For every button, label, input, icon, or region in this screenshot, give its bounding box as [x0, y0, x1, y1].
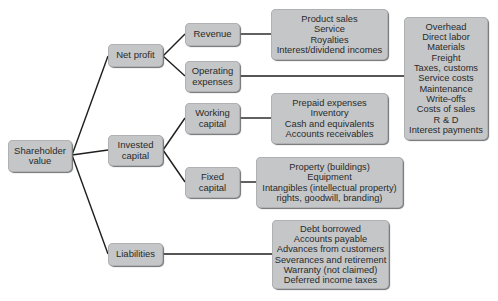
- list-item: Costs of sales: [417, 104, 475, 114]
- link-invested-fixed: [163, 150, 185, 182]
- node-liabilities: Liabilities: [108, 243, 163, 266]
- list-working-capital-items: Prepaid expenses Inventory Cash and equi…: [271, 93, 388, 144]
- node-net-profit: Net profit: [108, 44, 163, 67]
- link-root-invested-capital: [72, 150, 108, 155]
- list-item: Inventory: [310, 108, 348, 118]
- node-label: Working: [195, 108, 230, 119]
- list-item: Prepaid expenses: [292, 98, 366, 108]
- list-operating-expense-items: Overhead Direct labor Materials Freight …: [404, 17, 488, 140]
- list-item: Freight: [432, 53, 461, 63]
- list-item: Cash and equivalents: [285, 119, 374, 129]
- node-label: capital: [199, 119, 226, 130]
- list-item: rights, goodwill, branding): [277, 193, 383, 203]
- node-working-capital: Working capital: [185, 103, 240, 134]
- link-invested-working: [163, 118, 185, 150]
- list-item: R & D: [434, 115, 459, 125]
- list-item: Severances and retirement: [275, 255, 387, 265]
- link-root-net-profit: [72, 56, 108, 155]
- node-fixed-capital: Fixed capital: [185, 167, 240, 198]
- link-net-profit-revenue: [163, 34, 185, 56]
- node-label: Operating: [192, 66, 234, 77]
- node-invested-capital: Invested capital: [108, 135, 163, 166]
- list-item: Materials: [427, 42, 465, 52]
- list-liabilities-items: Debt borrowed Accounts payable Advances …: [272, 220, 389, 289]
- list-fixed-capital-items: Property (buildings) Equipment Intangibl…: [256, 157, 403, 208]
- list-item: Deferred income taxes: [284, 275, 378, 285]
- list-item: Taxes, customs: [414, 63, 478, 73]
- list-item: Royalties: [310, 35, 348, 45]
- node-revenue: Revenue: [185, 23, 240, 46]
- node-label: capital: [122, 151, 149, 162]
- list-item: Interest/dividend incomes: [277, 45, 382, 55]
- node-label: Invested: [118, 140, 154, 151]
- list-item: Overhead: [426, 22, 467, 32]
- list-item: Advances from customers: [277, 244, 384, 254]
- list-revenue-items: Product sales Service Royalties Interest…: [271, 9, 388, 60]
- list-item: Accounts payable: [294, 234, 367, 244]
- list-item: Accounts receivables: [286, 129, 374, 139]
- list-item: Debt borrowed: [300, 224, 361, 234]
- list-item: Intangibles (intellectual property): [262, 183, 396, 193]
- node-label: Liabilities: [116, 249, 155, 260]
- list-item: Maintenance: [419, 84, 472, 94]
- list-item: Write-offs: [426, 94, 465, 104]
- list-item: Warranty (not claimed): [284, 265, 378, 275]
- link-net-profit-opex: [163, 56, 185, 76]
- node-shareholder-value: Shareholder value: [8, 140, 72, 172]
- list-item: Product sales: [301, 14, 357, 24]
- node-label: Fixed: [201, 172, 224, 183]
- node-label: capital: [199, 183, 226, 194]
- list-item: Service: [314, 24, 345, 34]
- list-item: Direct labor: [422, 32, 470, 42]
- node-operating-expenses: Operating expenses: [185, 61, 240, 92]
- node-label: expenses: [192, 77, 233, 88]
- list-item: Interest payments: [409, 125, 483, 135]
- node-label: Net profit: [116, 50, 155, 61]
- list-item: Property (buildings): [289, 162, 370, 172]
- node-label: Revenue: [193, 29, 231, 40]
- link-root-liabilities: [72, 155, 108, 254]
- list-item: Equipment: [307, 172, 351, 182]
- list-item: Service costs: [418, 73, 473, 83]
- node-label: value: [29, 156, 52, 167]
